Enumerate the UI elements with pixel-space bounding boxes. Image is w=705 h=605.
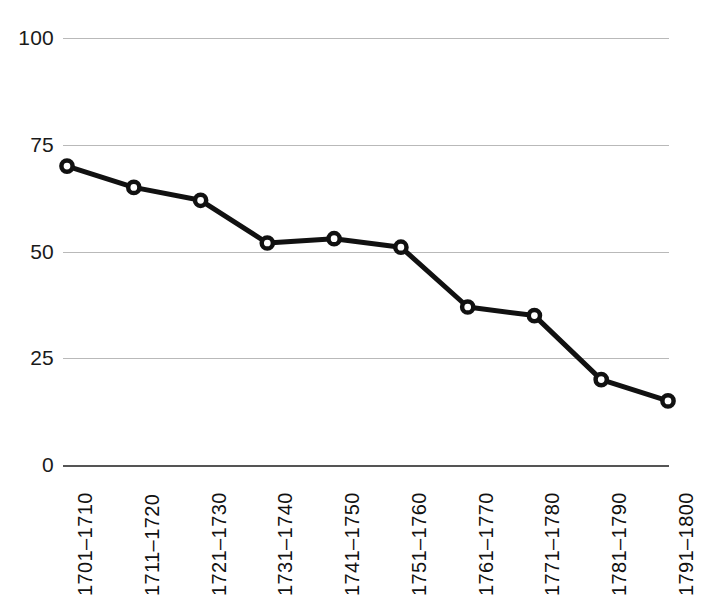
data-point-1771-1780	[529, 310, 540, 321]
data-point-1731-1740	[262, 237, 273, 248]
data-point-1721-1730	[195, 195, 206, 206]
data-point-1751-1760	[395, 242, 406, 253]
line-chart: 0255075100 1701–17101711–17201721–173017…	[0, 0, 705, 605]
series-line-1	[67, 166, 668, 401]
data-point-1781-1790	[596, 374, 607, 385]
data-point-1711-1720	[128, 182, 139, 193]
data-point-1761-1770	[462, 301, 473, 312]
data-series-layer	[0, 0, 705, 605]
data-point-1791-1800	[662, 395, 673, 406]
data-point-1701-1710	[61, 161, 72, 172]
series-marker-group	[61, 161, 673, 407]
data-point-1741-1750	[329, 233, 340, 244]
